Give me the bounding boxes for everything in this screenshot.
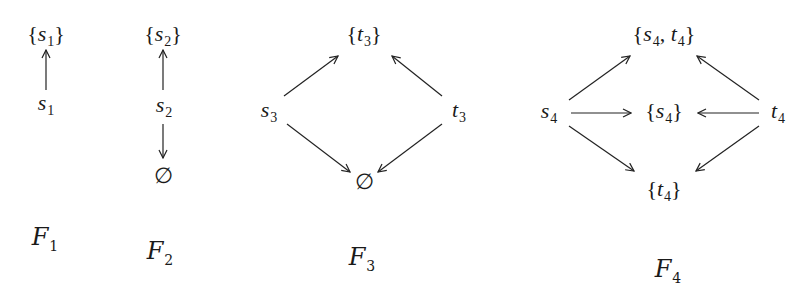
close-brace: } <box>371 21 382 46</box>
open-brace: { <box>645 98 656 123</box>
var: s <box>656 98 665 123</box>
label-subscript: 1 <box>49 238 58 254</box>
node-f4-s4: s4 <box>541 100 558 126</box>
var: s <box>261 97 270 122</box>
var: s <box>643 21 652 46</box>
subscript: 4 <box>778 111 785 126</box>
var: t <box>771 98 777 123</box>
var: t <box>452 97 458 122</box>
close-brace: } <box>54 21 65 46</box>
var: t <box>671 21 677 46</box>
arrow-f4-t4-to-set-s4t4 <box>697 56 759 100</box>
comma: , <box>660 21 671 46</box>
node-f4-t4: t4 <box>771 100 785 126</box>
subscript: 3 <box>270 110 277 125</box>
arrow-f3-t3-to-set-t3 <box>392 56 442 96</box>
node-f3-s3: s3 <box>261 99 278 125</box>
open-brace: { <box>646 176 657 201</box>
node-f1-s1: s1 <box>38 92 55 118</box>
diagram-label-f2: F2 <box>147 237 174 268</box>
var: s <box>38 21 47 46</box>
subscript: 2 <box>165 105 172 120</box>
var: t <box>657 176 663 201</box>
node-f3-t3: t3 <box>452 99 466 125</box>
arrow-f3-s3-to-empty <box>287 124 350 172</box>
node-f3-set-t3: {t3} <box>346 23 381 49</box>
node-f4-set-t4: {t4} <box>646 178 681 204</box>
arrow-f3-t3-to-empty <box>378 124 442 172</box>
diagram-label-f3: F3 <box>349 243 376 274</box>
var: s <box>38 90 47 115</box>
empty-set-symbol: ∅ <box>355 169 374 194</box>
node-f2-s2: s2 <box>156 94 173 120</box>
subscript: 4 <box>550 111 557 126</box>
diagram-label-f1: F1 <box>32 223 59 254</box>
var: s <box>155 21 164 46</box>
diagram-label-f4: F4 <box>655 255 682 286</box>
subscript: 3 <box>459 110 466 125</box>
var: s <box>156 92 165 117</box>
empty-set-symbol: ∅ <box>154 163 173 188</box>
close-brace: } <box>171 21 182 46</box>
node-f4-set-s4: {s4} <box>645 100 683 126</box>
open-brace: { <box>346 21 357 46</box>
close-brace: } <box>671 176 682 201</box>
node-f2-set-s2: {s2} <box>144 23 182 49</box>
var: s <box>541 98 550 123</box>
arrow-f3-s3-to-set-t3 <box>284 56 338 96</box>
open-brace: { <box>144 21 155 46</box>
subscript: 1 <box>47 103 54 118</box>
var: t <box>357 21 363 46</box>
node-f2-empty-set: ∅ <box>154 165 173 187</box>
open-brace: { <box>633 21 644 46</box>
label-letter: F <box>32 223 49 251</box>
subscript: 3 <box>364 34 371 49</box>
label-letter: F <box>147 237 164 265</box>
close-brace: } <box>672 98 683 123</box>
label-subscript: 4 <box>672 270 681 286</box>
arrow-f4-s4-to-set-t4 <box>569 126 634 171</box>
label-letter: F <box>655 255 672 283</box>
node-f3-empty-set: ∅ <box>355 171 374 193</box>
label-subscript: 3 <box>366 258 375 274</box>
open-brace: { <box>27 21 38 46</box>
node-f4-set-s4-t4: {s4, t4} <box>633 23 696 49</box>
label-letter: F <box>349 243 366 271</box>
subscript: 4 <box>664 189 671 204</box>
commutative-diagrams-figure: {s1} s1 F1 {s2} s2 ∅ F2 {t3} s3 t3 ∅ F3 … <box>0 0 811 292</box>
close-brace: } <box>685 21 696 46</box>
node-f1-set-s1: {s1} <box>27 23 65 49</box>
arrow-f4-t4-to-set-t4 <box>696 126 759 171</box>
arrow-f4-s4-to-set-s4t4 <box>569 56 630 100</box>
label-subscript: 2 <box>164 252 173 268</box>
